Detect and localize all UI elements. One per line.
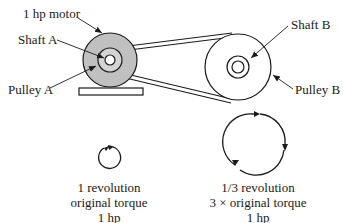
large-rotation-icon [223, 111, 288, 175]
caption-left-line2: original torque [59, 195, 159, 210]
caption-right-line3: 1 hp [198, 210, 318, 223]
motor-leader-arrow [78, 18, 102, 33]
motor-base [79, 88, 143, 95]
caption-right-line2: 3 × original torque [198, 195, 318, 210]
caption-left: 1 revolution original torque 1 hp [59, 180, 159, 223]
shaft-b [232, 61, 244, 73]
caption-right-line1: 1/3 revolution [198, 180, 318, 195]
caption-right: 1/3 revolution 3 × original torque 1 hp [198, 180, 318, 223]
caption-left-line3: 1 hp [59, 210, 159, 223]
caption-left-line1: 1 revolution [59, 180, 159, 195]
pulley-a [83, 33, 137, 87]
pulley-b-leader-arrow [273, 75, 293, 89]
shaft-b-label: Shaft B [291, 18, 330, 32]
pulley-b [205, 34, 271, 100]
shaft-a-label: Shaft A [18, 33, 57, 47]
pulley-b-label: Pulley B [295, 83, 340, 97]
motor-label: 1 hp motor [23, 7, 80, 21]
shaft-a [105, 55, 115, 65]
pulley-a-label: Pulley A [8, 83, 53, 97]
small-rotation-icon [99, 145, 121, 168]
